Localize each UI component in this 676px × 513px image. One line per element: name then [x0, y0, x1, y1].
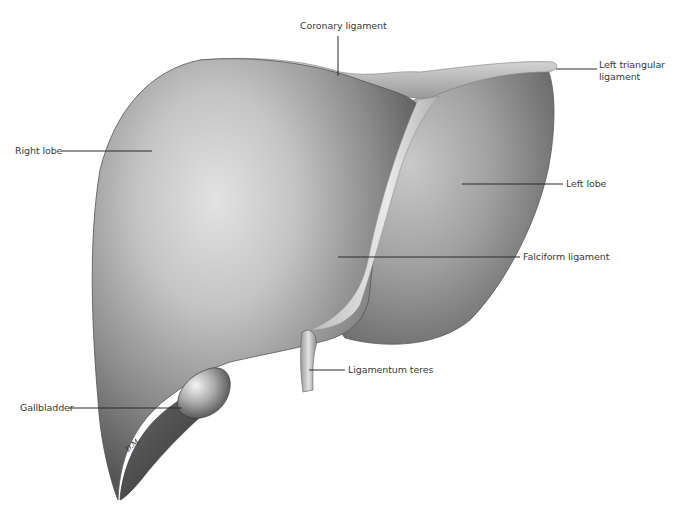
- label-gallbladder: Gallbladder: [20, 402, 74, 414]
- label-right-lobe: Right lobe: [15, 145, 62, 157]
- label-ligamentum-teres: Ligamentum teres: [348, 364, 433, 376]
- label-falciform-ligament: Falciform ligament: [523, 251, 609, 263]
- ligamentum-teres-shape: [301, 330, 317, 392]
- label-left-triangular-line2: ligament: [599, 71, 640, 83]
- right-lobe-shape: [92, 59, 418, 500]
- label-left-triangular-line1: Left triangular: [599, 59, 665, 71]
- label-coronary-ligament: Coronary ligament: [300, 20, 387, 32]
- label-left-lobe: Left lobe: [566, 178, 606, 190]
